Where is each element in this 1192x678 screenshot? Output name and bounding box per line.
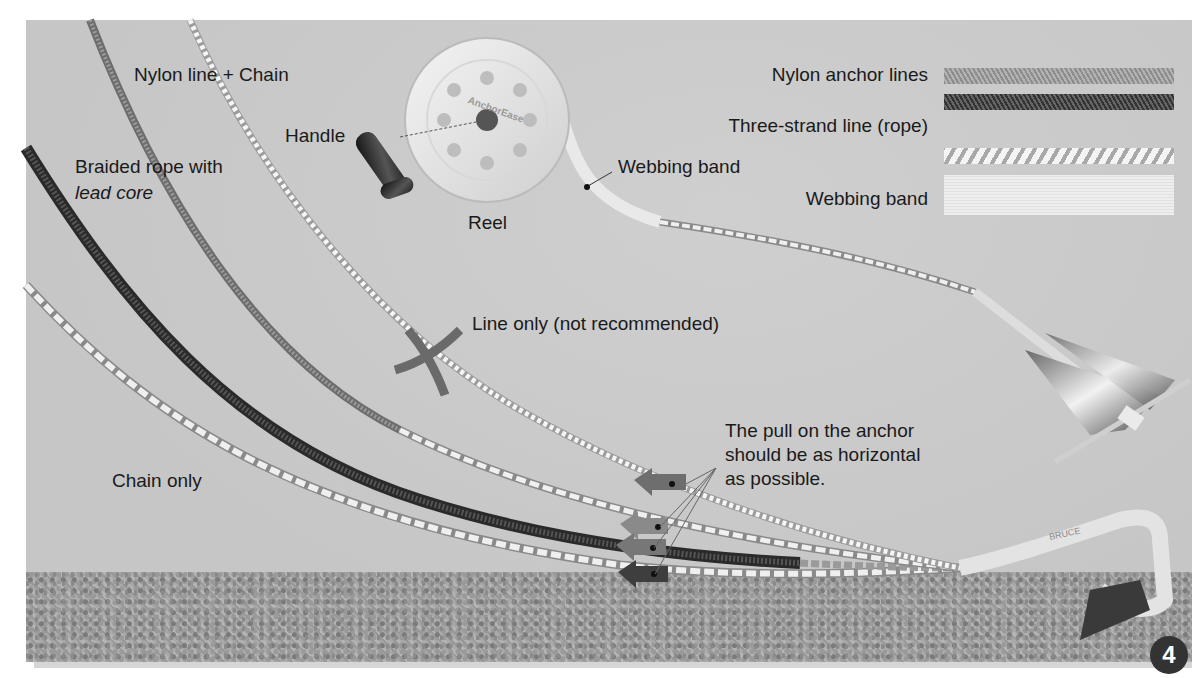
- webbing-pointer-dot: [584, 184, 590, 190]
- label-nylon-line-chain: Nylon line + Chain: [134, 64, 289, 86]
- legend-label-nylon: Nylon anchor lines: [772, 64, 928, 86]
- legend-label-webbing: Webbing band: [806, 188, 928, 210]
- label-webbing-band-pointer: Webbing band: [618, 156, 740, 178]
- danforth-anchor-icon: [975, 292, 1190, 462]
- handle-icon: [352, 128, 416, 201]
- label-handle: Handle: [285, 125, 345, 147]
- label-line-only: Line only (not recommended): [472, 313, 719, 335]
- bruce-anchor-icon: BRUCE: [960, 518, 1165, 641]
- swatch-braided-light: [944, 68, 1174, 84]
- legend-label-three-strand: Three-strand line (rope): [728, 115, 928, 137]
- label-braided-rope: Braided rope with: [75, 156, 223, 178]
- label-pull-note-3: as possible.: [725, 468, 825, 490]
- label-pull-note-2: should be as horizontal: [725, 444, 920, 466]
- reel-icon: AnchorEase: [400, 38, 569, 202]
- label-chain-only: Chain only: [112, 470, 202, 492]
- swatch-three-strand: [944, 148, 1174, 164]
- swatch-webbing: [944, 175, 1174, 215]
- page-number-badge: 4: [1150, 636, 1188, 674]
- swatch-braided-dark: [944, 94, 1174, 110]
- braided-lead-core-line: [26, 148, 960, 568]
- label-pull-note-1: The pull on the anchor: [725, 420, 914, 442]
- label-lead-core: lead core: [75, 182, 153, 204]
- label-reel: Reel: [468, 212, 507, 234]
